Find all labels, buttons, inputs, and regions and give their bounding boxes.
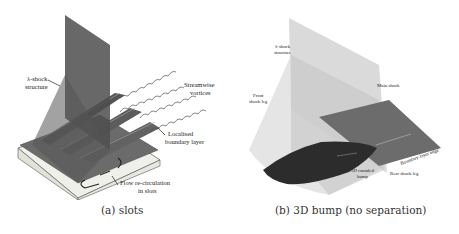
svg-text:shock leg: shock leg <box>249 99 268 104</box>
label-flow-recirculation: Flow re-circulation <box>120 179 171 186</box>
label-3d-rounded-bump: 3D rounded <box>351 168 374 173</box>
svg-text:structure: structure <box>25 83 48 90</box>
svg-text:bump: bump <box>357 174 369 179</box>
label-rear-shock-leg: Rear shock leg <box>390 171 419 176</box>
svg-text:in slots: in slots <box>138 187 157 194</box>
label-streamwise-vortices: Streamwise <box>184 81 214 88</box>
label-localised-boundary-layer: Localised <box>168 130 194 137</box>
label-main-shock: Main shock <box>377 83 400 88</box>
caption-a: (a) slots <box>101 204 143 216</box>
svg-text:vortices: vortices <box>190 89 211 96</box>
subfigure-a-slots: λ-shock structure Streamwise vortices Lo… <box>0 0 230 200</box>
svg-text:boundary layer: boundary layer <box>165 138 205 145</box>
label-front-shock-leg: Front <box>253 93 264 98</box>
label-lambda-shock: λ-shock <box>275 44 291 49</box>
subfigure-b-3d-bump: λ-shock structure Front shock leg Main s… <box>229 0 459 200</box>
slots-schematic: λ-shock structure Streamwise vortices Lo… <box>0 0 230 200</box>
svg-text:structure: structure <box>274 50 291 55</box>
caption-b: (b) 3D bump (no separation) <box>275 204 426 216</box>
bump-schematic: λ-shock structure Front shock leg Main s… <box>229 0 459 200</box>
label-lambda-shock: λ-shock <box>27 75 48 82</box>
